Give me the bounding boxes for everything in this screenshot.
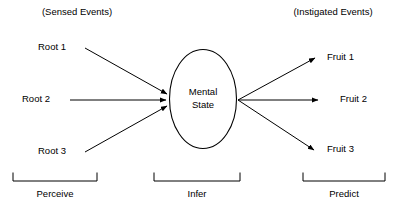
phase-label-infer: Infer bbox=[187, 189, 206, 199]
output-label-fruit-2: Fruit 2 bbox=[340, 94, 367, 104]
input-label-root-1: Root 1 bbox=[38, 42, 66, 52]
instigated-events-header: (Instigated Events) bbox=[293, 7, 372, 17]
output-label-fruit-1: Fruit 1 bbox=[327, 52, 354, 62]
input-label-root-2: Root 2 bbox=[22, 94, 50, 104]
diagram-canvas: (Sensed Events) (Instigated Events) Root… bbox=[0, 0, 396, 214]
arrow-mental-state-to-fruit-3 bbox=[238, 100, 314, 150]
input-label-root-3: Root 3 bbox=[38, 146, 66, 156]
arrow-mental-state-to-fruit-1 bbox=[238, 58, 315, 100]
arrow-root-1-to-mental-state bbox=[85, 48, 167, 94]
sensed-events-header: (Sensed Events) bbox=[42, 7, 112, 17]
arrow-root-3-to-mental-state bbox=[85, 106, 167, 152]
mental-state-label-line-1: Mental bbox=[163, 86, 243, 98]
bracket-perceive bbox=[13, 173, 97, 182]
phase-label-perceive: Perceive bbox=[37, 189, 74, 199]
bracket-predict bbox=[303, 173, 385, 182]
output-label-fruit-3: Fruit 3 bbox=[327, 144, 354, 154]
phase-label-predict: Predict bbox=[329, 189, 359, 199]
bracket-infer bbox=[154, 173, 240, 182]
mental-state-label-line-2: State bbox=[163, 99, 243, 111]
